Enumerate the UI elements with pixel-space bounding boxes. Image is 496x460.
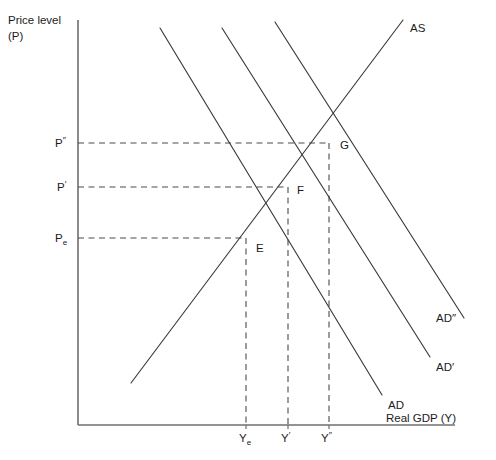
equilibrium-label-e: E (256, 242, 264, 254)
x-tick-mark-y-prime: ′ (289, 430, 291, 440)
x-tick-mark-y-double-prime: ″ (329, 430, 333, 440)
curve-ad (160, 28, 382, 395)
curve-label-as: AS (410, 22, 426, 34)
y-tick-mark-p-e: e (63, 238, 68, 247)
y-tick-mark-p-double-prime: ″ (63, 135, 67, 145)
equilibrium-label-g: G (340, 139, 349, 151)
curve-ad-double-prime (275, 22, 464, 318)
y-tick-label-p-prime: P′ (57, 179, 67, 193)
y-tick-label-p-double-prime: P″ (55, 135, 67, 149)
curve-label-ad-double-prime: AD″ (436, 312, 456, 324)
y-tick-label-p-e: Pe (55, 232, 68, 247)
curve-label-ad-prime: AD′ (436, 361, 454, 373)
x-tick-mark-y-e: e (247, 438, 252, 447)
chart-canvas: Price level (P) Real GDP (Y) AS AD AD′ A… (0, 0, 496, 460)
equilibrium-label-f: F (297, 184, 304, 196)
ad-as-diagram: Price level (P) Real GDP (Y) AS AD AD′ A… (0, 0, 496, 460)
x-tick-label-y-double-prime: Y″ (321, 430, 333, 444)
x-axis-title: Real GDP (Y) (386, 412, 456, 424)
x-tick-label-y-prime: Y′ (281, 430, 291, 444)
y-axis-title-line2: (P) (8, 30, 24, 42)
x-tick-label-y-e: Ye (239, 432, 252, 447)
curve-ad-prime (222, 28, 430, 357)
y-axis-title-line1: Price level (8, 14, 61, 26)
y-tick-mark-p-prime: ′ (65, 179, 67, 189)
curve-label-ad: AD (388, 399, 404, 411)
curve-as (131, 20, 403, 383)
